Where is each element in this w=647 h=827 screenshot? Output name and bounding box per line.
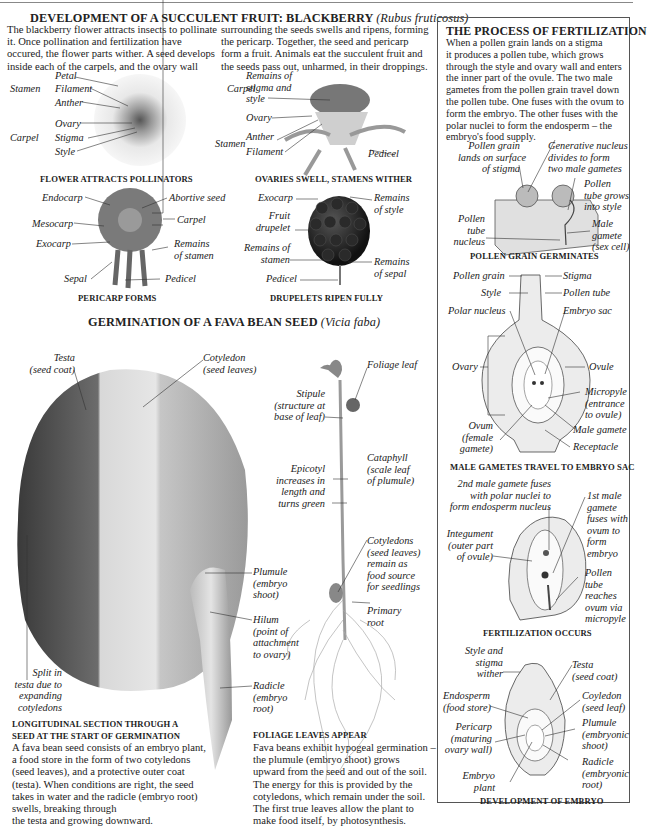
label-pollen-tube-reaches: Pollentubereachesovum viamicropyle xyxy=(585,567,626,625)
caption-ovaries: OVARIES SWELL, STAMENS WITHER xyxy=(255,174,412,184)
caption-pericarp: PERICARP FORMS xyxy=(78,293,157,303)
label-micropyle: Micropyle(entranceto ovule) xyxy=(585,386,627,421)
label-ovary-3: Ovary xyxy=(452,361,478,373)
label-plumule-2: Plumule(embryonicshoot) xyxy=(582,717,629,752)
label-hilum: Hilum(point ofattachmentto ovary) xyxy=(253,614,299,660)
foliage-text: Fava beans exhibit hypogeal germination … xyxy=(253,742,438,827)
label-filament: Filament xyxy=(55,83,92,95)
label-pollen-lands: Pollen grainlands on surfaceof stigma xyxy=(458,140,520,175)
caption-pollen: POLLEN GRAIN GERMINATES xyxy=(470,251,599,261)
label-pedicel-2: Pedicel xyxy=(165,273,196,285)
caption-drupelets: DRUPELETS RIPEN FULLY xyxy=(270,293,383,303)
label-carpel: Carpel xyxy=(10,132,39,144)
label-ovary-2: Ovary xyxy=(246,112,272,124)
label-remains-sepal: Remainsof sepal xyxy=(374,256,409,279)
label-ovary: Ovary xyxy=(55,118,81,130)
fertilization-text: When a pollen grain lands on a stigmait … xyxy=(446,37,628,143)
label-embryo-plant: Embryoplant xyxy=(455,770,495,793)
label-style-stigma-wither: Style andstigmawither xyxy=(450,645,503,680)
label-stamen: Stamen xyxy=(10,83,40,95)
label-fruit-drupelet: Fruitdrupelet xyxy=(250,210,290,233)
label-remains-stamen: Remainsof stamen xyxy=(174,238,214,261)
label-ovum: Ovum(femalegamete) xyxy=(448,420,493,455)
blackberry-intro-col2: surrounding the seeds swells and ripens,… xyxy=(221,24,436,73)
label-exocarp-2: Exocarp xyxy=(258,192,293,204)
blackberry-illustration xyxy=(290,196,372,285)
label-stigma: Stigma xyxy=(55,132,84,144)
label-style-2: Style xyxy=(481,287,501,299)
caption-flower: FLOWER ATTRACTS POLLINATORS xyxy=(40,174,193,184)
label-filament-2: Filament xyxy=(246,146,283,158)
label-remains-style: Remainsof style xyxy=(374,192,409,215)
label-generative-nucleus: Generative nucleusdivides to formtwo mal… xyxy=(548,140,628,175)
label-exocarp: Exocarp xyxy=(36,238,71,250)
label-carpel-3: Carpel xyxy=(177,214,206,226)
label-cataphyll: Cataphyll(scale leafof plumule) xyxy=(367,452,414,487)
label-pollen-tube-nucleus: Pollentubenucleus xyxy=(445,213,485,248)
label-male-gamete: Malegamete(sex cell) xyxy=(592,218,629,253)
label-stigma-2: Stigma xyxy=(563,270,592,282)
label-cotyledon: Cotyledon(seed leaves) xyxy=(203,352,256,375)
label-cotyledons: Cotyledons(seed leaves)remain asfood sou… xyxy=(367,535,420,593)
label-mesocarp: Mesocarp xyxy=(32,218,73,230)
label-stamen-2: Stamen xyxy=(215,138,245,150)
label-style: Style xyxy=(55,146,75,158)
label-radicle: Radicle(embryoroot) xyxy=(253,680,287,715)
label-primary-root: Primaryroot xyxy=(367,605,401,628)
label-1st-male-gamete: 1st malegametefuses withovum toformembry… xyxy=(587,490,628,559)
label-stipule: Stipule(structure atbase of leaf) xyxy=(270,388,325,423)
label-pollen-tube: Pollen tube xyxy=(563,287,610,299)
caption-travel: MALE GAMETES TRAVEL TO EMBRYO SAC xyxy=(450,462,635,472)
label-petal: Petal xyxy=(55,70,77,82)
label-pericarp: Pericarp(maturingovary wall) xyxy=(440,721,492,756)
germination-title: GERMINATION OF A FAVA BEAN SEED (Vicia f… xyxy=(88,315,380,330)
caption-occurs: FERTILIZATION OCCURS xyxy=(483,628,592,638)
label-remains-stigma: Remains ofstigma andstyle xyxy=(246,70,292,105)
label-radicle-2: Radicle(embryonicroot) xyxy=(582,756,629,791)
label-receptacle: Receptacle xyxy=(573,441,618,453)
label-plumule: Plumule(embryoshoot) xyxy=(253,566,287,601)
caption-longitudinal-1: LONGITUDINAL SECTION THROUGH A xyxy=(12,719,178,729)
caption-foliage: FOLIAGE LEAVES APPEAR xyxy=(253,730,367,740)
label-2nd-male-gamete: 2nd male gamete fuseswith polar nuclei t… xyxy=(443,478,551,513)
label-ovule: Ovule xyxy=(589,361,614,373)
label-pollen-tube-grows: Pollentube growsinto style xyxy=(584,178,629,213)
label-split-testa: Split intesta due toexpandingcotyledons xyxy=(8,667,62,713)
label-polar-nucleus: Polar nucleus xyxy=(448,305,505,317)
section-text: A fava bean seed consists of an embryo p… xyxy=(12,742,222,827)
label-integument: Integument(outer partof ovule) xyxy=(443,528,493,563)
label-endocarp: Endocarp xyxy=(42,192,83,204)
label-foliage-leaf: Foliage leaf xyxy=(367,359,417,371)
caption-embryo: DEVELOPMENT OF EMBRYO xyxy=(480,796,604,806)
label-testa-2: Testa(seed coat) xyxy=(572,659,617,682)
label-sepal: Sepal xyxy=(64,273,87,285)
label-embryo-sac: Embryo sac xyxy=(563,305,612,317)
label-male-gamete-2: Male gamete xyxy=(573,424,626,436)
label-endosperm: Endosperm(food store) xyxy=(443,690,491,713)
label-abortive-seed: Abortive seed xyxy=(169,192,225,204)
label-anther-2: Anther xyxy=(246,131,274,143)
label-coyledon: Coyledon(seed leaf) xyxy=(582,690,625,713)
label-epicotyl: Epicotylincreases inlength andturns gree… xyxy=(268,463,325,509)
label-anther: Anther xyxy=(55,97,83,109)
label-testa: Testa(seed coat) xyxy=(20,352,75,375)
blackberry-intro-col1: The blackberry flower attracts insects t… xyxy=(7,24,222,73)
label-pollen-grain: Pollen grain xyxy=(453,270,505,282)
label-pedicel: Pedicel xyxy=(368,148,399,160)
label-pedicel-3: Pedicel xyxy=(266,273,297,285)
label-remains-stamen-2: Remains ofstamen xyxy=(236,242,290,265)
caption-longitudinal-2: SEED AT THE START OF GERMINATION xyxy=(12,731,180,741)
